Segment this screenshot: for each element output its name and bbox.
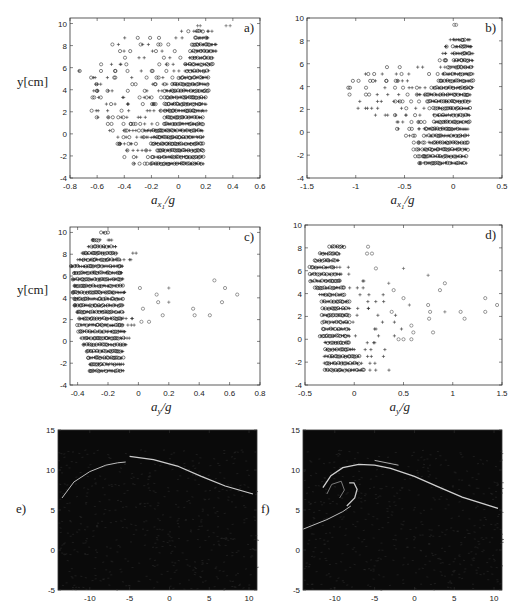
- y-tick-label: 4: [63, 86, 68, 95]
- x-tick-label: 0: [412, 594, 417, 603]
- x-tick-label: 0.2: [200, 182, 212, 191]
- x-tick-label: 1: [451, 389, 456, 398]
- y-tick-label: 0: [51, 546, 56, 555]
- scatter-points-d: [308, 245, 499, 372]
- y-tick-label: 5: [296, 506, 301, 515]
- x-tick-label: 0.5: [398, 389, 410, 398]
- x-tick-label: -0.4: [71, 389, 85, 398]
- y-tick-label: 0: [300, 128, 305, 137]
- x-tick-label: -0.8: [63, 182, 77, 191]
- x-tick-label: 5: [452, 594, 457, 603]
- y-tick-label: 6: [298, 267, 303, 276]
- y-tick-label: 6: [63, 272, 68, 281]
- wave-image-e: [58, 430, 259, 590]
- x-tick-label: 0.8: [254, 389, 266, 398]
- y-tick-label: 0: [296, 546, 301, 555]
- x-tick-label: -1.5: [300, 182, 314, 191]
- x-tick-label: 5: [207, 594, 212, 603]
- y-tick-label: 8: [63, 250, 68, 259]
- x-tick-label: -10: [329, 594, 341, 603]
- y-tick-label: -4: [297, 174, 305, 183]
- y-tick-label: 10: [58, 20, 67, 29]
- y-tick-label: 2: [300, 105, 305, 114]
- panel-label: a): [244, 20, 254, 35]
- x-tick-label: 0: [136, 389, 141, 398]
- panel-label: b): [485, 20, 496, 35]
- x-axis-label: ay/g: [390, 399, 411, 416]
- y-tick-label: 6: [300, 60, 305, 69]
- y-tick-label: 4: [298, 290, 303, 299]
- axes-c: -0.4-0.200.20.40.60.81086420-2-4c)ay/gy[…: [17, 227, 266, 416]
- y-tick-label: 8: [63, 42, 68, 51]
- x-tick-label: -1: [352, 182, 360, 191]
- y-tick-label: 0: [63, 337, 68, 346]
- y-tick-label: 8: [298, 244, 303, 253]
- axes-b: -1.5-1-0.500.51086420-2-4b)ax1/g: [295, 14, 508, 211]
- x-tick-label: -5: [371, 594, 379, 603]
- x-tick-label: 10: [490, 594, 499, 603]
- y-tick-label: 15: [46, 426, 55, 435]
- y-tick-label: 10: [293, 221, 302, 230]
- panel-label: e): [16, 501, 26, 516]
- y-tick-label: 4: [63, 294, 68, 303]
- y-tick-label: -5: [293, 586, 301, 595]
- y-tick-label: 5: [51, 506, 56, 515]
- scatter-points-c: [69, 231, 238, 373]
- x-tick-label: 10: [245, 594, 254, 603]
- y-tick-label: -2: [60, 152, 68, 161]
- panel-label: f): [261, 501, 270, 516]
- y-tick-label: 15: [291, 426, 300, 435]
- x-tick-label: 0: [352, 389, 357, 398]
- x-tick-label: 0.2: [163, 389, 175, 398]
- panel-label: d): [485, 227, 496, 242]
- x-tick-label: -10: [84, 594, 96, 603]
- x-tick-label: 0.4: [194, 389, 206, 398]
- x-tick-label: -0.2: [101, 389, 115, 398]
- x-tick-label: 1.5: [496, 389, 508, 398]
- y-tick-label: -4: [60, 174, 68, 183]
- y-tick-label: 2: [63, 316, 68, 325]
- axes-a: -0.8-0.6-0.4-0.200.20.40.61086420-2-4a)a…: [17, 18, 266, 211]
- y-tick-label: 2: [63, 108, 68, 117]
- x-tick-label: -0.5: [298, 389, 312, 398]
- y-tick-label: 2: [298, 312, 303, 321]
- wave-image-f: [303, 430, 504, 590]
- x-tick-label: 0: [451, 182, 456, 191]
- scatter-points-a: [77, 24, 231, 165]
- x-tick-label: 0.4: [227, 182, 239, 191]
- x-tick-label: -0.2: [145, 182, 159, 191]
- y-tick-label: 6: [63, 64, 68, 73]
- y-tick-label: 4: [300, 83, 305, 92]
- x-tick-label: -0.5: [398, 182, 412, 191]
- y-tick-label: -4: [60, 381, 68, 390]
- y-axis-label: y[cm]: [17, 74, 48, 89]
- x-tick-label: -5: [126, 594, 134, 603]
- x-tick-label: 0: [176, 182, 181, 191]
- y-tick-label: 8: [300, 37, 305, 46]
- x-tick-label: -0.6: [90, 182, 104, 191]
- y-tick-label: 10: [295, 14, 304, 23]
- y-tick-label: -5: [48, 586, 56, 595]
- panel-label: c): [244, 229, 254, 244]
- y-tick-label: 0: [63, 130, 68, 139]
- x-tick-label: -0.4: [117, 182, 131, 191]
- y-tick-label: -2: [60, 359, 68, 368]
- x-tick-label: 0.5: [496, 182, 508, 191]
- x-tick-label: 0.6: [254, 182, 266, 191]
- figure-canvas: -0.8-0.6-0.4-0.200.20.40.61086420-2-4a)a…: [0, 0, 517, 611]
- y-axis-label: y[cm]: [17, 282, 48, 297]
- x-axis-label: ay/g: [151, 399, 172, 416]
- y-tick-label: 10: [58, 228, 67, 237]
- y-tick-label: 0: [298, 335, 303, 344]
- figure: -0.8-0.6-0.4-0.200.20.40.61086420-2-4a)a…: [0, 0, 517, 611]
- y-tick-label: -4: [295, 381, 303, 390]
- x-axis-label: ax1/g: [151, 192, 176, 211]
- x-tick-label: 0.6: [224, 389, 236, 398]
- x-tick-label: 0: [167, 594, 172, 603]
- x-axis-label: ax1/g: [391, 192, 416, 211]
- y-tick-label: -2: [295, 358, 303, 367]
- y-tick-label: 10: [291, 466, 300, 475]
- scatter-points-b: [347, 23, 475, 165]
- y-tick-label: 10: [46, 466, 55, 475]
- axes-d: -0.500.511.51086420-2-4d)ay/g: [293, 221, 508, 416]
